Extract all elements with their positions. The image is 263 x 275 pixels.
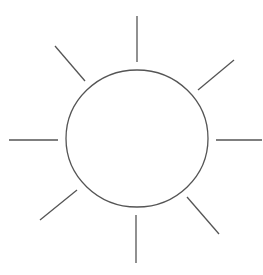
ray-bottom-right xyxy=(187,197,219,234)
sun-diagram xyxy=(0,0,263,275)
sun-rays xyxy=(9,16,262,263)
ray-bottom-left xyxy=(40,190,77,220)
ray-top-left xyxy=(55,46,85,81)
ray-top-right xyxy=(198,60,234,90)
sun-circle xyxy=(66,70,208,207)
